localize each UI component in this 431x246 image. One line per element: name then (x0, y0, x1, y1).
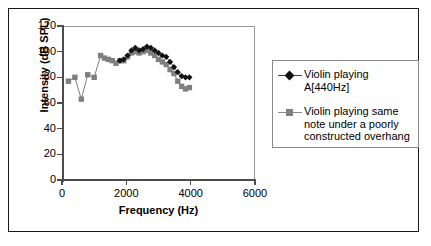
diamond-marker-icon (285, 70, 295, 80)
y-tick-label: 0 (10, 174, 56, 185)
legend-item-violin-a440[interactable]: Violin playing A[440Hz] (278, 68, 369, 93)
x-tick (190, 180, 191, 185)
data-point-square (72, 75, 77, 80)
x-axis-title: Frequency (Hz) (62, 204, 255, 216)
x-tick-label: 0 (40, 188, 84, 199)
data-point-square (91, 75, 96, 80)
chart-data-layer (62, 26, 255, 180)
chart-plot-block: Intensity (dB SPL) 020406080100120 02000… (12, 12, 262, 227)
y-tick-label: 80 (10, 71, 56, 82)
data-point-square (175, 78, 180, 83)
data-point-square (66, 78, 71, 83)
square-marker-icon (286, 109, 293, 116)
legend-item-violin-overhang[interactable]: Violin playing same note under a poorly … (278, 105, 410, 143)
chart-legend: Violin playing A[440Hz] Violin playing s… (272, 60, 419, 148)
y-tick-label: 100 (10, 46, 56, 57)
x-tick-label: 2000 (104, 188, 148, 199)
legend-key-square (278, 106, 302, 119)
y-axis-tick-labels: 020406080100120 (10, 12, 56, 182)
x-tick-label: 6000 (233, 188, 277, 199)
y-tick-label: 60 (10, 97, 56, 108)
x-tick (126, 180, 127, 185)
chart-figure: Intensity (dB SPL) 020406080100120 02000… (0, 0, 431, 246)
y-tick-label: 120 (10, 20, 56, 31)
legend-key-diamond (278, 69, 302, 82)
x-tick (254, 180, 255, 185)
data-point-diamond (186, 74, 192, 80)
legend-label: Violin playing A[440Hz] (304, 68, 369, 93)
data-point-square (79, 96, 84, 101)
series-violin-a440 (117, 43, 193, 80)
data-point-square (187, 85, 192, 90)
x-tick (61, 180, 62, 185)
legend-label: Violin playing same note under a poorly … (304, 105, 410, 143)
y-tick-label: 40 (10, 123, 56, 134)
data-point-square (85, 72, 90, 77)
x-tick-label: 4000 (169, 188, 213, 199)
y-tick-label: 20 (10, 148, 56, 159)
